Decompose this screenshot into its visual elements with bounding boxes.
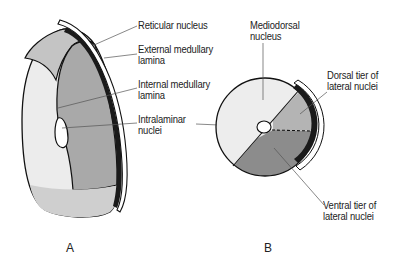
- intralaminar-oval: [257, 121, 271, 133]
- label-dorsal-tier-line2: lateral nuclei: [327, 81, 378, 92]
- posterior-region: [30, 185, 119, 217]
- label-ventral-tier-line2: lateral nuclei: [323, 211, 374, 222]
- label-external-medullary-line2: lamina: [138, 55, 165, 66]
- panel-label-b: B: [264, 241, 272, 255]
- thalamus-diagram: [0, 0, 401, 268]
- panel-label-a: A: [66, 241, 74, 255]
- label-internal-medullary-line2: lamina: [138, 90, 165, 101]
- label-mediodorsal-line2: nucleus: [250, 31, 281, 42]
- panel-b-drawing: [200, 78, 330, 190]
- label-reticular-nucleus: Reticular nucleus: [138, 20, 208, 31]
- label-intralaminar-line2: nuclei: [138, 125, 162, 136]
- panel-a-drawing: [22, 20, 127, 217]
